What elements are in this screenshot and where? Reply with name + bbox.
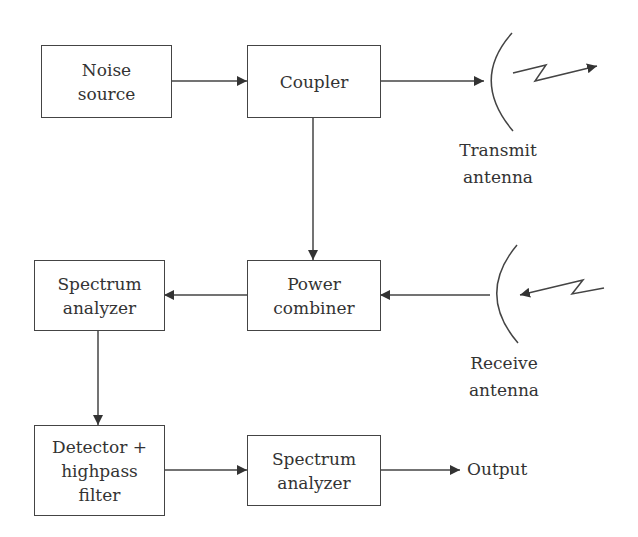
- receive-antenna-label-line2: antenna: [454, 377, 554, 404]
- power-combiner-block: Power combiner: [247, 260, 381, 331]
- noise-source-block: Noise source: [41, 45, 172, 118]
- coupler-block: Coupler: [247, 45, 381, 118]
- spectrum-analyzer-2-label-line1: Spectrum: [272, 447, 356, 471]
- detector-label-line2: highpass: [52, 459, 147, 483]
- spectrum-analyzer-1-label-line1: Spectrum: [57, 272, 141, 296]
- transmit-antenna-icon: [491, 33, 513, 131]
- detector-highpass-filter-block: Detector + highpass filter: [34, 425, 165, 516]
- detector-label-line3: filter: [52, 483, 147, 507]
- receive-antenna-label-line1: Receive: [454, 350, 554, 377]
- receive-antenna-icon: [497, 245, 518, 343]
- spectrum-analyzer-2-block: Spectrum analyzer: [247, 435, 381, 506]
- power-combiner-label-line1: Power: [273, 272, 354, 296]
- transmit-antenna-label: Transmit antenna: [448, 137, 548, 191]
- receive-signal-icon: [520, 280, 604, 295]
- spectrum-analyzer-1-label-line2: analyzer: [57, 296, 141, 320]
- power-combiner-label-line2: combiner: [273, 296, 354, 320]
- noise-source-label-line2: source: [78, 82, 136, 106]
- spectrum-analyzer-1-block: Spectrum analyzer: [34, 260, 165, 331]
- spectrum-analyzer-2-label-line2: analyzer: [272, 471, 356, 495]
- detector-label-line1: Detector +: [52, 435, 147, 459]
- transmit-antenna-label-line2: antenna: [448, 164, 548, 191]
- coupler-label: Coupler: [280, 70, 349, 94]
- receive-antenna-label: Receive antenna: [454, 350, 554, 404]
- output-label: Output: [467, 456, 527, 483]
- transmit-signal-icon: [513, 65, 597, 81]
- noise-source-label-line1: Noise: [78, 58, 136, 82]
- transmit-antenna-label-line1: Transmit: [448, 137, 548, 164]
